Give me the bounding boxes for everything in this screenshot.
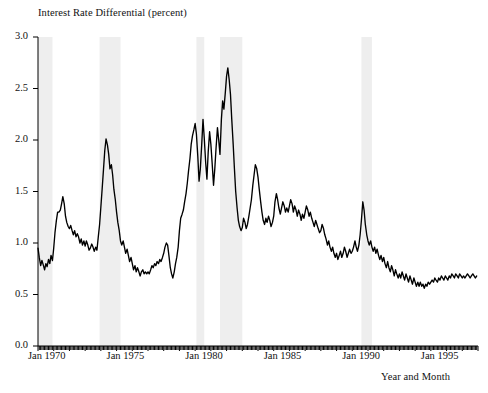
y-axis-tick-label: 1.0 <box>2 236 28 247</box>
chart-container: Interest Rate Differential (percent) Yea… <box>0 0 488 393</box>
recession-band <box>361 37 372 346</box>
y-axis-tick-label: 3.0 <box>2 30 28 41</box>
y-axis-tick-label: 2.0 <box>2 133 28 144</box>
recession-band <box>100 37 121 346</box>
recession-band <box>196 37 204 346</box>
recession-band <box>220 37 242 346</box>
x-axis-tick-label: Jan 1970 <box>28 350 66 361</box>
recession-band <box>38 37 52 346</box>
y-axis-tick-label: 0.0 <box>2 339 28 350</box>
x-axis-tick-label: Jan 1975 <box>107 350 145 361</box>
y-axis-tick-label: 0.5 <box>2 288 28 299</box>
x-axis-tick-label: Jan 1985 <box>264 350 302 361</box>
y-axis-tick-label: 1.5 <box>2 185 28 196</box>
x-axis-tick-label: Jan 1990 <box>342 350 380 361</box>
y-axis-tick-label: 2.5 <box>2 82 28 93</box>
recession-bands-group <box>38 37 372 346</box>
x-axis-tick-label: Jan 1995 <box>421 350 459 361</box>
line-chart-plot <box>0 0 488 393</box>
x-axis-tick-label: Jan 1980 <box>185 350 223 361</box>
